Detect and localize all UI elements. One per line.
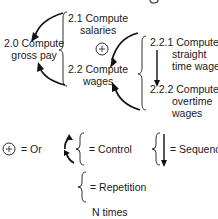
node-2-0: 2.0 Compute gross pay	[4, 37, 64, 61]
node-2-2-2: 2.2.2 Compute overtime wages	[150, 83, 218, 119]
node-2-1-line1: 2.1 Compute	[68, 12, 128, 24]
node-2-2-line1: 2.2 Compute	[68, 63, 128, 75]
node-2-2-2-line3: wages	[150, 107, 218, 119]
node-2-2-line2: wages	[68, 75, 128, 87]
node-2-2-1: 2.2.1 Compute straight time wages	[150, 36, 218, 72]
node-2-1-line2: salaries	[68, 24, 128, 36]
control-arrow-icon	[35, 13, 63, 36]
legend-control-brace-icon	[76, 133, 84, 165]
node-2-2-2-line1: 2.2.2 Compute	[150, 83, 218, 95]
legend-control-label: = Control	[89, 143, 132, 155]
node-2-2-1-line2: straight	[150, 48, 218, 60]
legend-repetition-brace-icon	[78, 172, 86, 202]
control-arrow-icon	[115, 88, 140, 110]
arrowhead-icon	[37, 62, 44, 72]
legend-sequence-label: = Sequence	[170, 143, 218, 155]
legend-repetition-sublabel: N times	[92, 206, 128, 218]
legend-sequence-brace-icon	[152, 133, 160, 165]
node-2-1: 2.1 Compute salaries	[68, 12, 128, 36]
legend-repetition-label: = Repetition	[90, 181, 146, 193]
node-2-2-1-line3: time wages	[150, 60, 218, 72]
node-2-2: 2.2 Compute wages	[68, 63, 128, 87]
legend-or-label: = Or	[21, 143, 42, 155]
control-arrow-icon	[112, 33, 138, 60]
cropped-glyph	[150, 0, 158, 3]
node-2-0-line2: gross pay	[4, 49, 64, 61]
control-arrow-icon	[40, 68, 65, 85]
brace-icon	[138, 36, 146, 110]
node-2-0-line1: 2.0 Compute	[4, 37, 64, 49]
node-2-2-2-line2: overtime	[150, 95, 218, 107]
node-2-2-1-line1: 2.2.1 Compute	[150, 36, 218, 48]
